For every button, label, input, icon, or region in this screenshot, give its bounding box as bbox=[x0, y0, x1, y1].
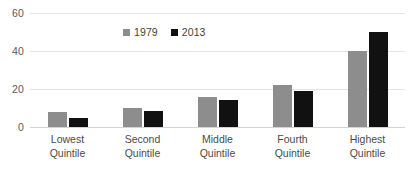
y-tick-label-0: 0 bbox=[18, 121, 24, 133]
legend-entry-1979: 1979 bbox=[123, 26, 158, 38]
y-tick-label-40: 40 bbox=[12, 45, 24, 57]
x-label-line1: Highest bbox=[350, 133, 386, 145]
x-label-line2: Quintile bbox=[105, 147, 180, 161]
x-label-line2: Quintile bbox=[180, 147, 255, 161]
x-label-middle-quintile: Middle Quintile bbox=[180, 133, 255, 160]
legend-swatch-icon-1979 bbox=[123, 29, 130, 36]
x-label-line2: Quintile bbox=[30, 147, 105, 161]
bar-1979-middle-quintile bbox=[198, 97, 217, 127]
bar-2013-middle-quintile bbox=[219, 100, 238, 127]
bar-group-fourth-quintile bbox=[255, 13, 330, 127]
x-label-lowest-quintile: Lowest Quintile bbox=[30, 133, 105, 160]
x-label-line1: Second bbox=[125, 133, 161, 145]
legend-entry-2013: 2013 bbox=[171, 26, 206, 38]
plot-area: 60 40 20 0 bbox=[30, 13, 405, 127]
x-label-fourth-quintile: Fourth Quintile bbox=[255, 133, 330, 160]
y-tick-label-60: 60 bbox=[12, 7, 24, 19]
bar-group-lowest-quintile bbox=[30, 13, 105, 127]
gridline-0-axis: 0 bbox=[30, 127, 405, 128]
legend-label-1979: 1979 bbox=[134, 26, 158, 38]
y-tick-label-20: 20 bbox=[12, 83, 24, 95]
legend-swatch-icon-2013 bbox=[171, 29, 178, 36]
x-label-line2: Quintile bbox=[255, 147, 330, 161]
bar-1979-lowest-quintile bbox=[48, 112, 67, 127]
legend: 1979 2013 bbox=[123, 26, 206, 38]
x-label-line1: Middle bbox=[202, 133, 233, 145]
bar-group-highest-quintile bbox=[330, 13, 405, 127]
x-label-line1: Lowest bbox=[51, 133, 84, 145]
bar-2013-highest-quintile bbox=[369, 32, 388, 127]
legend-label-2013: 2013 bbox=[182, 26, 206, 38]
x-label-line1: Fourth bbox=[277, 133, 307, 145]
x-label-line2: Quintile bbox=[330, 147, 405, 161]
bar-1979-highest-quintile bbox=[348, 51, 367, 127]
x-axis-category-labels: Lowest Quintile Second Quintile Middle Q… bbox=[30, 133, 405, 160]
bar-chart: 60 40 20 0 bbox=[0, 0, 412, 178]
bar-2013-fourth-quintile bbox=[294, 91, 313, 127]
x-label-second-quintile: Second Quintile bbox=[105, 133, 180, 160]
x-label-highest-quintile: Highest Quintile bbox=[330, 133, 405, 160]
bar-groups bbox=[30, 13, 405, 127]
bar-1979-second-quintile bbox=[123, 108, 142, 127]
bar-2013-second-quintile bbox=[144, 111, 163, 127]
bar-1979-fourth-quintile bbox=[273, 85, 292, 127]
bar-2013-lowest-quintile bbox=[69, 118, 88, 128]
